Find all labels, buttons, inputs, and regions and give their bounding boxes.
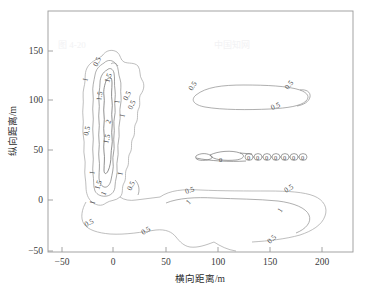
contour-figure: 图 4-20 中国知网: [0, 0, 368, 291]
contour-label: 0: [292, 154, 295, 161]
contour-plot-svg: 图 4-20 中国知网: [0, 0, 368, 291]
svg-text:0: 0: [292, 154, 295, 161]
svg-text:0: 0: [219, 156, 222, 163]
contour-label: 0: [283, 154, 286, 161]
contour-label: 0: [256, 154, 259, 161]
plot-background: [48, 11, 353, 252]
x-tick-label: 0: [111, 257, 116, 267]
svg-text:0: 0: [256, 154, 259, 161]
x-axis-label: 横向距离/m: [175, 273, 226, 284]
watermark-left: 图 4-20: [58, 40, 86, 50]
svg-text:0: 0: [274, 154, 277, 161]
x-tick-labels: −50 0 50 100 150 200: [55, 257, 330, 267]
x-tick-label: −50: [55, 257, 70, 267]
watermark-right: 中国知网: [214, 39, 250, 50]
contour-label: 0: [265, 154, 268, 161]
y-tick-label: 0: [38, 195, 43, 205]
contour-label: 0: [274, 154, 277, 161]
svg-text:0: 0: [247, 154, 250, 161]
svg-text:0: 0: [265, 154, 268, 161]
y-tick-label: 100: [29, 95, 44, 105]
y-tick-label: 150: [29, 46, 44, 56]
x-tick-label: 150: [263, 257, 278, 267]
contour-label: 1.5: [94, 90, 105, 101]
contour-label: 0: [219, 156, 222, 163]
x-tick-label: 200: [315, 257, 330, 267]
y-tick-label: −50: [28, 246, 43, 256]
y-tick-label: 50: [34, 145, 44, 155]
y-tick-labels: 150 100 50 0 −50: [28, 46, 43, 256]
x-tick-label: 100: [211, 257, 226, 267]
svg-text:0: 0: [301, 154, 304, 161]
contour-label: 0: [247, 154, 250, 161]
svg-text:1.5: 1.5: [94, 90, 105, 101]
svg-text:0: 0: [283, 154, 286, 161]
x-tick-label: 50: [161, 257, 171, 267]
contour-label: 0: [301, 154, 304, 161]
y-axis-label: 纵向距离/m: [7, 105, 18, 156]
